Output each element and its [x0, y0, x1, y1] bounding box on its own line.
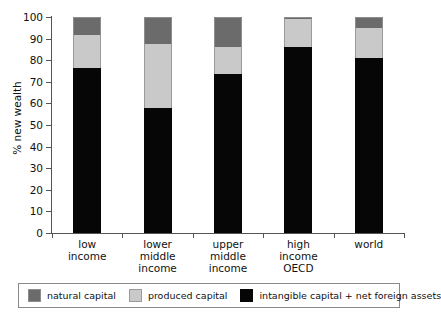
y-tick-mark [46, 60, 51, 61]
y-tick-label: 70 [0, 77, 43, 88]
y-tick-mark [46, 233, 51, 234]
bar-stack [144, 17, 172, 233]
legend-label: intangible capital + net foreign assets [259, 291, 441, 301]
legend-swatch-icon [129, 289, 142, 302]
legend-label: natural capital [47, 291, 116, 301]
bar-stack [284, 17, 312, 233]
y-tick-label: 10 [0, 206, 43, 217]
y-tick-mark [46, 125, 51, 126]
y-tick-label: 100 [0, 12, 43, 23]
x-axis-line [51, 233, 404, 234]
bar-segment [144, 17, 172, 44]
y-tick-label: 50 [0, 120, 43, 131]
legend-label: produced capital [148, 291, 228, 301]
bar-segment [355, 28, 383, 58]
legend-item: produced capital [129, 289, 228, 302]
bar-segment [284, 47, 312, 233]
bar-segment [73, 17, 101, 35]
bar-stack [73, 17, 101, 233]
bar-segment [214, 47, 242, 74]
bar-segment [355, 58, 383, 233]
legend-swatch-icon [240, 289, 253, 302]
bar-stack [355, 17, 383, 233]
x-axis-label: world [326, 238, 412, 250]
y-tick-label: 60 [0, 98, 43, 109]
bar-segment [214, 17, 242, 47]
bar-segment [73, 68, 101, 233]
x-axis-label-line: income [255, 250, 341, 262]
y-tick-label: 40 [0, 142, 43, 153]
bar-stack [214, 17, 242, 233]
y-tick-label: 0 [0, 228, 43, 239]
legend-item: intangible capital + net foreign assets [240, 289, 441, 302]
bar-segment [144, 44, 172, 108]
bar-segment [214, 74, 242, 233]
y-tick-label: 80 [0, 55, 43, 66]
bar-segment [355, 17, 383, 28]
x-axis-label-line: OECD [255, 262, 341, 274]
y-tick-mark [46, 168, 51, 169]
bar-segment [144, 108, 172, 233]
y-tick-mark [46, 190, 51, 191]
y-tick-label: 30 [0, 163, 43, 174]
legend-item: natural capital [28, 289, 116, 302]
y-tick-mark [46, 39, 51, 40]
legend-swatch-icon [28, 289, 41, 302]
plot-area [52, 17, 404, 233]
y-tick-mark [46, 147, 51, 148]
bar-segment [284, 19, 312, 47]
y-tick-mark [46, 17, 51, 18]
x-axis-label-line: world [326, 238, 412, 250]
y-tick-label: 90 [0, 34, 43, 45]
y-tick-mark [46, 103, 51, 104]
legend-items: natural capitalproduced capitalintangibl… [19, 284, 399, 307]
bar-segment [73, 35, 101, 67]
chart-legend: natural capitalproduced capitalintangibl… [18, 283, 400, 308]
y-tick-mark [46, 211, 51, 212]
y-tick-mark [46, 82, 51, 83]
y-tick-label: 20 [0, 185, 43, 196]
